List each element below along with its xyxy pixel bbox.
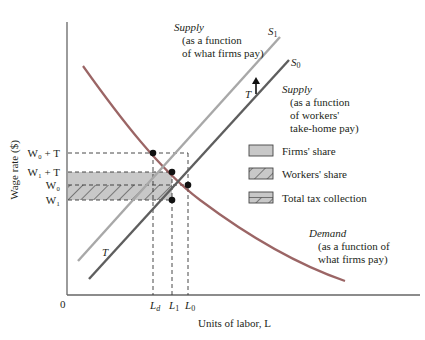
t-arrow-label: T (245, 88, 252, 100)
supply1-title: Supply (174, 21, 204, 33)
supply1-line2: of what firms pay) (182, 47, 264, 60)
workers-share-region (68, 185, 172, 200)
x-tick-l0: L0 (184, 299, 195, 313)
legend-swatch-firms (249, 145, 273, 156)
y-tick-w1: W₁ (46, 194, 60, 206)
legend: Firms' share Workers' share Total tax co… (249, 145, 367, 204)
x-axis-label: Units of labor, L (198, 317, 271, 329)
y-tick-w0t: W₀ + T (28, 147, 61, 159)
supply0-title: Supply (282, 83, 312, 95)
demand-line1: (as a function of (318, 240, 390, 253)
supply0-line3: take-home pay) (290, 122, 359, 135)
legend-label-total: Total tax collection (282, 192, 367, 204)
y-tick-w0: W₀ (46, 179, 60, 191)
demand-line2: what firms pay) (318, 253, 388, 266)
legend-swatch-workers (249, 168, 273, 179)
s0-label: S0 (291, 56, 301, 70)
y-tick-w1t: W₁ + T (28, 166, 61, 178)
supply1-line1: (as a function (182, 34, 242, 47)
legend-label-firms: Firms' share (282, 145, 336, 157)
s1-label: S1 (268, 25, 278, 39)
x-tick-ld: Ld (149, 299, 161, 313)
demand-title: Demand (308, 227, 347, 239)
origin-label: 0 (60, 298, 66, 310)
x-tick-l1: L1 (168, 299, 179, 313)
legend-label-workers: Workers' share (282, 168, 347, 180)
tax-incidence-diagram: Wage rate ($) W₀ + T W₁ + T W₀ W₁ 0 Ld L… (0, 0, 425, 340)
y-axis-label: Wage rate ($) (8, 140, 21, 200)
supply0-line1: (as a function (290, 96, 350, 109)
t-gap-label: T (102, 246, 109, 258)
supply0-line2: of workers' (290, 109, 339, 121)
